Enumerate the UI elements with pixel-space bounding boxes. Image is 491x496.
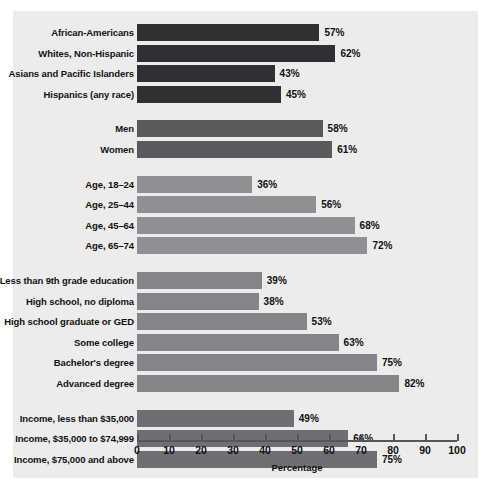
bar-row: Bachelor's degree75%: [13, 354, 478, 371]
x-axis-tick: [201, 434, 203, 441]
bar-rect: [137, 272, 262, 289]
bar-row: Men58%: [13, 120, 478, 137]
bar-rect: [137, 217, 355, 234]
bar-value-label: 57%: [319, 24, 344, 41]
bar-label: Income, $75,000 and above: [14, 451, 134, 468]
bar-value-label: 45%: [281, 86, 306, 103]
bar-value-label: 61%: [332, 141, 357, 158]
bar-rect: [137, 141, 332, 158]
bar-rect: [137, 65, 275, 82]
bar-rect: [137, 24, 319, 41]
bar-rect: [137, 375, 399, 392]
chart-plot-area: African-Americans57%Whites, Non-Hispanic…: [13, 11, 478, 478]
bar-value-label: 75%: [377, 354, 402, 371]
bar-rect: [137, 293, 259, 310]
x-axis-tick: [329, 434, 331, 441]
x-axis-tick: [361, 434, 363, 441]
bar-row: Age, 18–2436%: [13, 176, 478, 193]
bar-label: Women: [100, 141, 134, 158]
bar-label: Age, 65–74: [85, 237, 134, 254]
bar-row: Advanced degree82%: [13, 375, 478, 392]
bar-label: Age, 45–64: [85, 217, 134, 234]
bar-value-label: 62%: [335, 45, 360, 62]
bar-label: African-Americans: [51, 24, 134, 41]
x-axis-title: Percentage: [137, 462, 457, 473]
x-axis-tick: [137, 434, 139, 441]
bar-value-label: 36%: [252, 176, 277, 193]
bar-row: High school graduate or GED53%: [13, 313, 478, 330]
bar-row: African-Americans57%: [13, 24, 478, 41]
bar-rect: [137, 120, 323, 137]
bar-label: Advanced degree: [56, 375, 134, 392]
bar-label: Some college: [74, 334, 134, 351]
bar-label: Income, less than $35,000: [20, 410, 134, 427]
bar-label: Age, 25–44: [85, 196, 134, 213]
bar-row: Hispanics (any race)45%: [13, 86, 478, 103]
bar-rect: [137, 45, 335, 62]
x-axis-tick: [233, 434, 235, 441]
bar-value-label: 63%: [339, 334, 364, 351]
bar-value-label: 72%: [367, 237, 392, 254]
x-axis-tick: [425, 434, 427, 441]
bar-value-label: 53%: [307, 313, 332, 330]
bar-row: Asians and Pacific Islanders43%: [13, 65, 478, 82]
x-axis-tick-label: 100: [437, 444, 477, 456]
bar-label: Bachelor's degree: [54, 354, 134, 371]
bar-label: Men: [115, 120, 134, 137]
bar-rect: [137, 410, 294, 427]
bar-row: Women61%: [13, 141, 478, 158]
bar-rect: [137, 237, 367, 254]
bar-value-label: 56%: [316, 196, 341, 213]
bar-rect: [137, 86, 281, 103]
bar-label: Less than 9th grade education: [0, 272, 134, 289]
bar-rect: [137, 176, 252, 193]
bar-label: Whites, Non-Hispanic: [38, 45, 134, 62]
bar-row: Whites, Non-Hispanic62%: [13, 45, 478, 62]
bar-row: Income, less than $35,00049%: [13, 410, 478, 427]
bar-value-label: 38%: [259, 293, 284, 310]
bar-row: Age, 45–6468%: [13, 217, 478, 234]
bar-value-label: 39%: [262, 272, 287, 289]
bar-label: Hispanics (any race): [44, 86, 134, 103]
x-axis-tick: [297, 434, 299, 441]
chart-figure: African-Americans57%Whites, Non-Hispanic…: [13, 11, 478, 478]
x-axis-tick: [169, 434, 171, 441]
x-axis-tick: [393, 434, 395, 441]
bar-value-label: 82%: [399, 375, 424, 392]
bar-row: Age, 25–4456%: [13, 196, 478, 213]
bar-label: High school, no diploma: [26, 293, 134, 310]
bar-label: Asians and Pacific Islanders: [8, 65, 134, 82]
bar-label: Age, 18–24: [85, 176, 134, 193]
bar-value-label: 49%: [294, 410, 319, 427]
x-axis-tick: [457, 434, 459, 441]
bar-value-label: 58%: [323, 120, 348, 137]
bar-row: Age, 65–7472%: [13, 237, 478, 254]
bar-value-label: 68%: [355, 217, 380, 234]
bar-rect: [137, 313, 307, 330]
bar-rect: [137, 354, 377, 371]
bar-row: High school, no diploma38%: [13, 293, 478, 310]
bar-rect: [137, 334, 339, 351]
bar-row: Less than 9th grade education39%: [13, 272, 478, 289]
bar-rect: [137, 196, 316, 213]
bar-value-label: 43%: [275, 65, 300, 82]
x-axis-tick: [265, 434, 267, 441]
bar-row: Some college63%: [13, 334, 478, 351]
bar-label: High school graduate or GED: [4, 313, 134, 330]
